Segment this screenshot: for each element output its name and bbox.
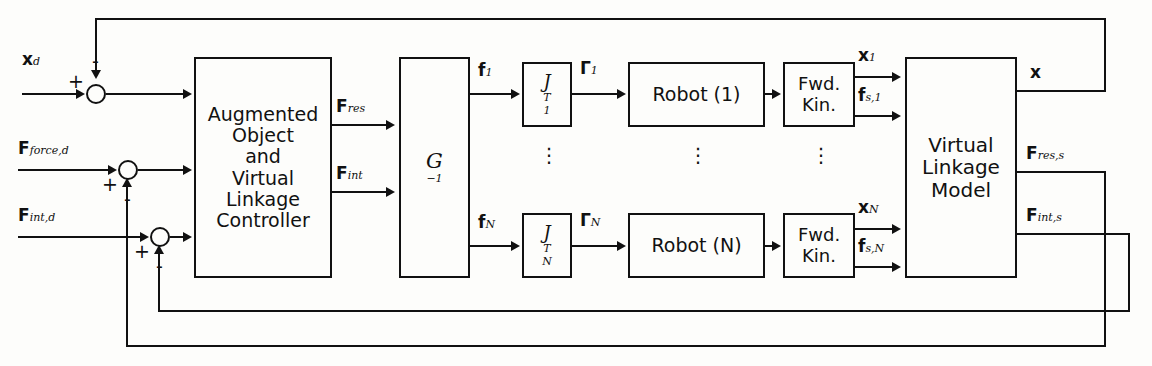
wire-fress-out — [1017, 171, 1106, 173]
controller-line-4: Virtual — [232, 168, 294, 189]
vlm-line-2: Linkage — [922, 156, 1000, 178]
arrow-f1 — [511, 89, 520, 99]
block-robot-n[interactable]: Robot (N) — [628, 213, 765, 278]
signal-label-fint: Fint — [336, 163, 363, 183]
summing-junction-3[interactable] — [150, 227, 170, 247]
fwd-kin-n-line-2: Kin. — [802, 246, 836, 266]
wire-x-out — [1017, 90, 1106, 92]
wire-sum3-controller — [170, 236, 184, 238]
wire-gamma1 — [572, 93, 618, 95]
arrow-fint — [386, 187, 395, 197]
signal-label-x1: x1 — [858, 45, 876, 65]
block-controller[interactable]: Augmented Object and Virtual Linkage Con… — [194, 57, 332, 278]
block-forward-kinematics-1[interactable]: Fwd. Kin. — [783, 62, 855, 127]
controller-line-5: Linkage — [226, 189, 300, 210]
wire-fforced-in — [18, 169, 110, 171]
ellipsis-robot: ⋮ — [688, 150, 704, 160]
signal-label-fres: Fres — [336, 96, 365, 116]
output-label-x: x — [1030, 62, 1041, 82]
wire-fsN — [855, 266, 893, 268]
controller-line-6: Controller — [216, 210, 309, 231]
wire-fints-drop — [1128, 233, 1130, 312]
signal-label-gamman: ΓN — [580, 210, 600, 230]
wire-fint — [332, 191, 387, 193]
wire-sum2-controller — [138, 169, 184, 171]
controller-line-1: Augmented — [208, 104, 319, 125]
signal-label-f1: f1 — [478, 60, 492, 80]
vlm-line-3: Model — [931, 179, 991, 201]
arrow-gammaN — [617, 241, 626, 251]
signal-label-xn: xN — [858, 197, 879, 217]
block-robot-1[interactable]: Robot (1) — [628, 62, 765, 127]
signal-label-fn: fN — [478, 212, 495, 232]
controller-line-3: and — [245, 146, 281, 167]
block-jacobian-transpose-n[interactable]: JTN — [522, 213, 572, 278]
arrow-robot1-fwd1 — [772, 89, 781, 99]
wire-x-drop — [95, 18, 97, 72]
summing-junction-1[interactable] — [86, 84, 106, 104]
wire-fress-drop — [1104, 171, 1106, 347]
wire-fints-riser — [158, 253, 160, 312]
block-jacobian-transpose-1[interactable]: JT1 — [522, 62, 572, 127]
summing-junction-2[interactable] — [118, 160, 138, 180]
sign-j2-plus: + — [102, 175, 118, 194]
arrow-fsN — [892, 262, 901, 272]
arrow-fres — [386, 120, 395, 130]
vlm-line-1: Virtual — [928, 134, 993, 156]
arrow-fintd-in — [140, 232, 149, 242]
wire-xd-in — [22, 93, 78, 95]
signal-label-gamma1: Γ1 — [580, 58, 598, 78]
fwd-kin-1-line-2: Kin. — [802, 95, 836, 115]
block-virtual-linkage-model[interactable]: Virtual Linkage Model — [905, 57, 1017, 278]
wire-fints-bottom-rail — [158, 310, 1130, 312]
output-label-fint-s: Fint,s — [1026, 205, 1062, 225]
controller-line-2: Object — [232, 125, 294, 146]
arrow-fs1 — [892, 111, 901, 121]
arrow-x1 — [892, 72, 901, 82]
wire-fN — [470, 245, 512, 247]
robot-1-label: Robot (1) — [652, 84, 740, 105]
signal-label-fsn: fs,N — [858, 236, 884, 256]
arrow-xd-in — [76, 89, 85, 99]
fwd-kin-1-line-1: Fwd. — [798, 74, 840, 94]
wire-gammaN — [572, 245, 618, 247]
g-inverse-label: G−1 — [426, 150, 443, 186]
arrow-xN — [892, 224, 901, 234]
input-label-f-force-d: Fforce,d — [18, 138, 69, 158]
arrow-x-into-sum1 — [91, 70, 101, 79]
wire-xN — [855, 228, 893, 230]
sign-j3-plus: + — [134, 242, 150, 261]
arrow-fress-into-sum2 — [122, 178, 132, 187]
ellipsis-fwd-kin: ⋮ — [811, 150, 827, 160]
wire-fres — [332, 124, 387, 126]
wire-x-top-rail — [95, 18, 1106, 20]
signal-label-fs1: fs,1 — [858, 85, 882, 105]
wire-fress-riser — [126, 186, 128, 347]
arrow-fN — [511, 241, 520, 251]
block-forward-kinematics-n[interactable]: Fwd. Kin. — [783, 213, 855, 278]
arrow-robotn-fwdn — [772, 241, 781, 251]
arrow-sum3-controller — [183, 232, 192, 242]
wire-fress-bottom-rail — [126, 345, 1106, 347]
wire-fints-out — [1017, 233, 1130, 235]
input-label-xd: xd — [22, 49, 40, 69]
wire-x-riser — [1104, 18, 1106, 92]
wire-x1 — [855, 76, 893, 78]
wire-fs1 — [855, 115, 893, 117]
arrow-fforced-in — [108, 165, 117, 175]
fwd-kin-n-line-1: Fwd. — [798, 225, 840, 245]
ellipsis-jacobian: ⋮ — [539, 150, 555, 160]
wire-f1 — [470, 93, 512, 95]
block-diagram: Augmented Object and Virtual Linkage Con… — [0, 0, 1152, 366]
jacobian-1-label: JT1 — [543, 72, 550, 117]
output-label-fres-s: Fres,s — [1026, 143, 1064, 163]
wire-sum1-controller — [106, 93, 184, 95]
arrow-sum2-controller — [183, 165, 192, 175]
block-g-inverse[interactable]: G−1 — [399, 57, 470, 278]
wire-fintd-in — [18, 236, 142, 238]
input-label-f-int-d: Fint,d — [18, 205, 55, 225]
robot-n-label: Robot (N) — [651, 235, 741, 256]
arrow-sum1-controller — [183, 89, 192, 99]
arrow-fints-into-sum3 — [154, 245, 164, 254]
jacobian-n-label: JTN — [542, 223, 552, 268]
